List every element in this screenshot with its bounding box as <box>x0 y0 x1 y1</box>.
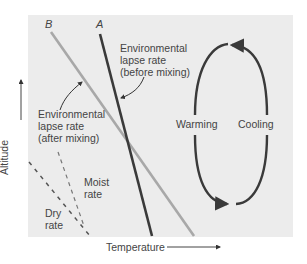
before-mixing-label: Environmental lapse rate (before mixing) <box>120 42 190 78</box>
dry-rate-label: Dry rate <box>45 207 63 231</box>
before-mixing-line1: Environmental <box>120 42 190 54</box>
moist-rate-line2: rate <box>84 188 109 200</box>
after-mixing-line2: lapse rate <box>38 120 105 132</box>
moist-rate-line1: Moist <box>84 176 109 188</box>
dry-rate-line1: Dry <box>45 207 63 219</box>
moist-rate-label: Moist rate <box>84 176 109 200</box>
warming-arc <box>195 44 228 115</box>
temperature-axis-label: Temperature <box>106 241 165 253</box>
after-mixing-label: Environmental lapse rate (after mixing) <box>38 108 105 144</box>
before-mixing-line3: (before mixing) <box>120 66 190 78</box>
pointer-arrow-b <box>60 82 82 110</box>
line-a-label: A <box>96 18 103 30</box>
cooling-arc-bottom <box>236 135 267 204</box>
cooling-arc-top <box>232 45 267 115</box>
warming-label: Warming <box>176 118 218 130</box>
dry-rate-line2: rate <box>45 219 63 231</box>
warming-arc-bottom <box>195 135 227 204</box>
pointer-arrow-a <box>121 77 144 98</box>
after-mixing-line1: Environmental <box>38 108 105 120</box>
before-mixing-line2: lapse rate <box>120 54 190 66</box>
line-b-label: B <box>45 18 52 30</box>
cooling-label: Cooling <box>238 118 274 130</box>
after-mixing-line3: (after mixing) <box>38 132 105 144</box>
altitude-axis-label: Altitude <box>0 140 10 175</box>
